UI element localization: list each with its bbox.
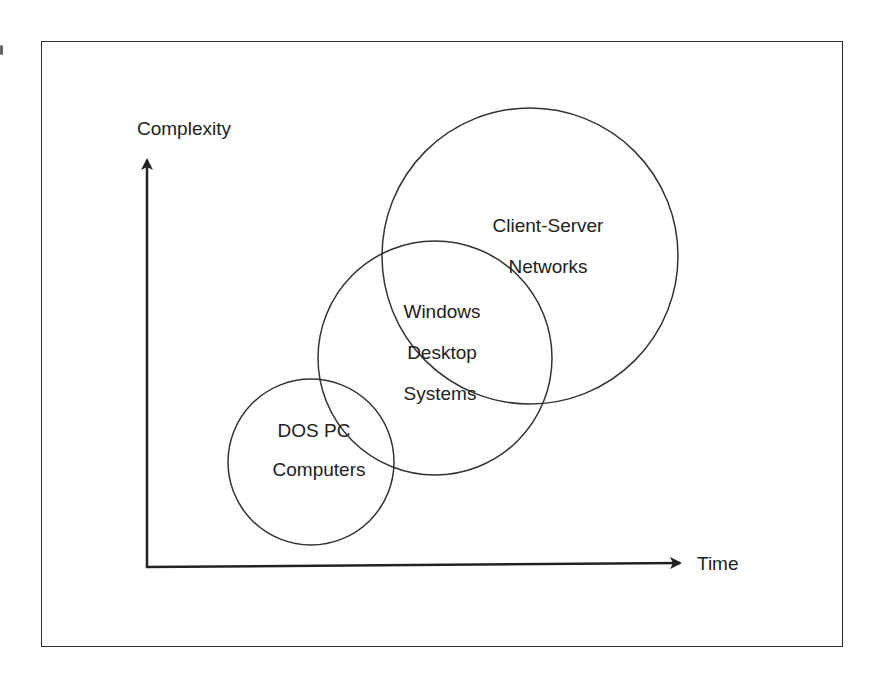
- label-windows-line1: Windows: [403, 301, 480, 322]
- label-client-server-line2: Networks: [508, 256, 587, 277]
- y-axis-label: Complexity: [137, 118, 231, 139]
- label-dos-line2: Computers: [273, 459, 366, 480]
- x-axis: [146, 563, 680, 567]
- label-windows-line2: Desktop: [407, 342, 477, 363]
- label-dos-line1: DOS PC: [278, 420, 351, 441]
- label-windows-line3: Systems: [404, 383, 477, 404]
- diagram-canvas: Complexity Time Client-Server Networks W…: [0, 0, 881, 678]
- x-axis-label: Time: [697, 553, 739, 574]
- label-client-server-line1: Client-Server: [493, 215, 605, 236]
